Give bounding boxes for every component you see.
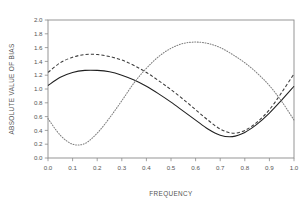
x-tick-label: 0.5	[167, 164, 176, 171]
y-tick-label: 1.2	[34, 71, 43, 78]
x-tick-label: 0.9	[265, 164, 274, 171]
x-tick-label: 0.8	[240, 164, 249, 171]
y-tick-label: 2.0	[34, 16, 43, 23]
x-tick-label: 0.7	[216, 164, 225, 171]
x-tick-label: 0.4	[142, 164, 151, 171]
chart-plot-area: 0.00.20.40.60.81.01.21.41.61.82.0 0.00.1…	[0, 0, 307, 205]
y-tick-label: 0.4	[34, 127, 43, 134]
x-tick-label: 0.0	[44, 164, 53, 171]
y-tick-label: 0.0	[34, 154, 43, 161]
y-axis-title: ABSOLUTE VALUE OF BIAS	[8, 43, 15, 134]
y-tick-label: 1.8	[34, 30, 43, 37]
y-tick-label: 0.6	[34, 113, 43, 120]
chart-series-dotted	[48, 42, 294, 145]
x-axis-title: FREQUENCY	[149, 190, 193, 198]
y-tick-label: 0.8	[34, 99, 43, 106]
x-tick-label: 0.3	[117, 164, 126, 171]
x-tick-label: 1.0	[290, 164, 299, 171]
y-tick-label: 1.4	[34, 58, 43, 65]
y-axis-ticks: 0.00.20.40.60.81.01.21.41.61.82.0	[34, 16, 48, 161]
x-tick-label: 0.2	[93, 164, 102, 171]
chart-series-solid	[48, 70, 294, 137]
chart-figure: 0.00.20.40.60.81.01.21.41.61.82.0 0.00.1…	[0, 0, 307, 205]
y-tick-label: 0.2	[34, 140, 43, 147]
chart-series-dashed	[48, 54, 294, 133]
x-tick-label: 0.6	[191, 164, 200, 171]
y-tick-label: 1.6	[34, 44, 43, 51]
x-axis-ticks: 0.00.10.20.30.40.50.60.70.80.91.0	[44, 158, 299, 171]
chart-series-group	[48, 42, 294, 145]
plot-frame	[48, 20, 294, 158]
y-tick-label: 1.0	[34, 85, 43, 92]
x-tick-label: 0.1	[68, 164, 77, 171]
